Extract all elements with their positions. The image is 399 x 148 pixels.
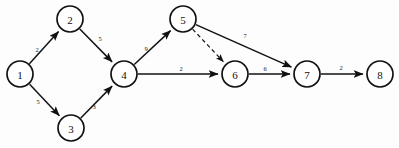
- edge-weight-3-4: 3: [92, 103, 95, 110]
- edge-1-to-3: [30, 84, 60, 115]
- edge-weight-1-2: 2: [35, 46, 38, 53]
- node-label-2: 2: [67, 14, 73, 26]
- diagram-canvas: 255392762 12345678: [0, 0, 399, 148]
- edge-weight-6-7: 6: [263, 65, 267, 72]
- edge-2-to-4: [80, 29, 112, 62]
- node-1[interactable]: 1: [7, 61, 33, 87]
- node-label-3: 3: [68, 123, 74, 135]
- node-3[interactable]: 3: [58, 115, 84, 141]
- node-2[interactable]: 2: [57, 6, 83, 32]
- edge-weight-7-8: 2: [339, 64, 342, 71]
- edge-weight-5-7: 7: [243, 32, 247, 39]
- edge-weight-2-4: 5: [98, 35, 101, 42]
- node-label-5: 5: [180, 14, 186, 26]
- node-label-6: 6: [232, 69, 238, 81]
- node-label-7: 7: [304, 69, 310, 81]
- node-4[interactable]: 4: [111, 61, 137, 87]
- node-7[interactable]: 7: [294, 61, 320, 87]
- node-5[interactable]: 5: [170, 6, 196, 32]
- node-8[interactable]: 8: [367, 61, 393, 87]
- edge-weight-4-5: 9: [144, 45, 147, 52]
- edge-weight-4-6: 2: [179, 65, 182, 72]
- node-label-8: 8: [377, 69, 383, 81]
- edge-1-to-2: [29, 32, 58, 64]
- node-6[interactable]: 6: [222, 61, 248, 87]
- node-label-4: 4: [121, 69, 127, 81]
- edge-4-to-5: [134, 31, 170, 65]
- node-label-1: 1: [17, 69, 23, 81]
- network-diagram: 255392762 12345678: [0, 0, 399, 148]
- edge-3-to-4: [81, 86, 112, 118]
- edge-weight-1-3: 5: [36, 98, 39, 105]
